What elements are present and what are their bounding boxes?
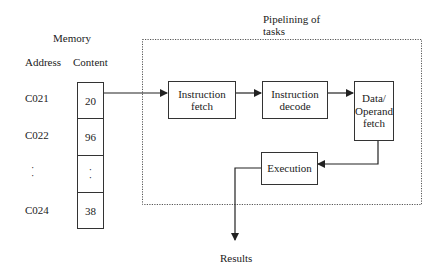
stage-execution: Execution — [261, 152, 318, 185]
results-label: Results — [220, 252, 252, 264]
stage-label: fetch — [355, 117, 393, 130]
stage-label: fetch — [178, 100, 226, 113]
pipeline-diagram: Memory Address Content C021 C022 · · C02… — [0, 0, 442, 278]
stage-label: Data/ — [355, 92, 393, 105]
address-label: C022 — [25, 129, 49, 141]
address-column-header: Address — [25, 56, 61, 68]
stage-label: Instruction — [271, 88, 319, 101]
arrow-operand-to-execution — [318, 141, 378, 164]
pipeline-label-line2: tasks — [263, 25, 320, 37]
memory-cell: · · — [77, 155, 104, 193]
memory-cell: 38 — [77, 192, 104, 229]
memory-cell-value: 96 — [85, 131, 96, 143]
memory-cell: 96 — [77, 118, 104, 156]
memory-cell-value: 38 — [85, 205, 96, 217]
stage-instruction-fetch: Instruction fetch — [168, 81, 236, 119]
pipeline-label: Pipelining of tasks — [263, 13, 320, 37]
stage-label: Operand — [355, 105, 393, 118]
address-ellipsis: · · — [31, 164, 34, 180]
content-column-header: Content — [73, 56, 108, 68]
address-label: C021 — [25, 92, 49, 104]
stage-operand-fetch: Data/ Operand fetch — [354, 81, 394, 141]
memory-title: Memory — [53, 32, 91, 44]
stage-label: decode — [271, 100, 319, 113]
memory-cell-value: 20 — [85, 95, 96, 107]
stage-label: Execution — [267, 162, 312, 175]
memory-cell-ellipsis: · · — [89, 166, 92, 182]
stage-label: Instruction — [178, 88, 226, 101]
memory-cell: 20 — [77, 82, 104, 119]
address-label: C024 — [25, 204, 49, 216]
stage-instruction-decode: Instruction decode — [262, 81, 328, 119]
pipeline-label-line1: Pipelining of — [263, 13, 320, 25]
